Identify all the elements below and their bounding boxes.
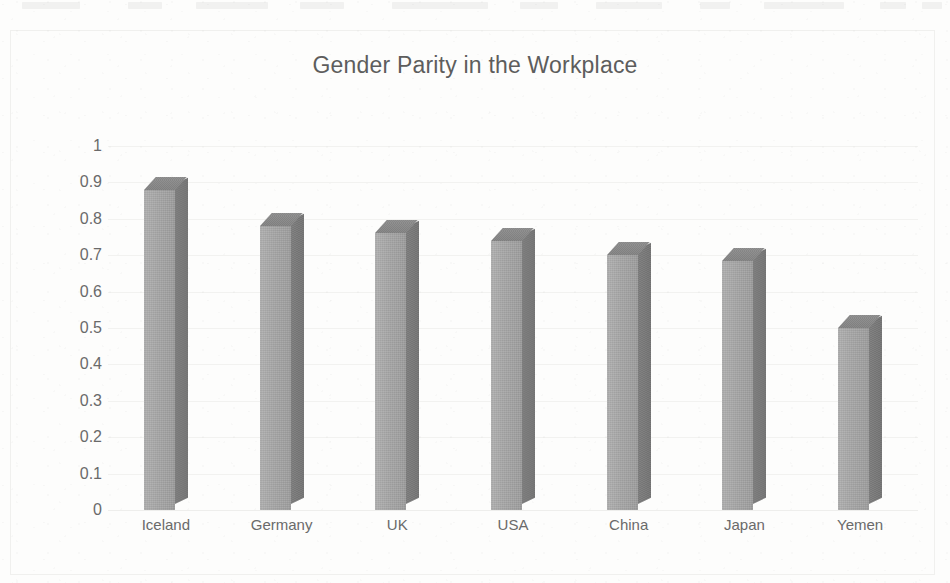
gridline bbox=[108, 219, 918, 220]
chart-title: Gender Parity in the Workplace bbox=[0, 52, 950, 79]
bar-side-face bbox=[753, 248, 766, 504]
chart-page: Gender Parity in the Workplace 10.90.80.… bbox=[0, 0, 950, 583]
x-axis-tick-label: USA bbox=[498, 516, 529, 533]
scan-artifact-fragment bbox=[700, 2, 730, 9]
bar-front-face bbox=[375, 233, 406, 510]
bar-column[interactable] bbox=[375, 233, 406, 510]
y-axis-tick-label: 0 bbox=[28, 501, 102, 519]
x-axis-tick-label: Germany bbox=[251, 516, 313, 533]
y-axis-tick-label: 0.3 bbox=[28, 392, 102, 410]
x-axis-tick-label: Iceland bbox=[142, 516, 190, 533]
bar-side-face bbox=[638, 243, 651, 504]
scan-artifact-fragment bbox=[520, 2, 558, 9]
bar-side-face bbox=[406, 221, 419, 504]
y-axis-tick-label: 0.7 bbox=[28, 246, 102, 264]
scan-artifact-fragment bbox=[596, 2, 662, 9]
gridline bbox=[108, 146, 918, 147]
y-axis-tick-label: 0.6 bbox=[28, 283, 102, 301]
bar-front-face bbox=[260, 226, 291, 510]
bar-side-face bbox=[522, 228, 535, 504]
bar-front-face bbox=[722, 261, 753, 510]
x-axis: IcelandGermanyUKUSAChinaJapanYemen bbox=[108, 516, 918, 546]
y-axis-tick-label: 0.9 bbox=[28, 173, 102, 191]
scan-artifact-fragment bbox=[300, 2, 344, 9]
x-axis-tick-label: China bbox=[609, 516, 648, 533]
bar-column[interactable] bbox=[260, 226, 291, 510]
y-axis-tick-label: 0.8 bbox=[28, 210, 102, 228]
scan-artifact-fragment bbox=[922, 2, 942, 9]
y-axis-tick-label: 0.2 bbox=[28, 428, 102, 446]
scan-artifact-fragment bbox=[764, 2, 844, 9]
scan-artifact-fragment bbox=[128, 2, 162, 9]
bar-column[interactable] bbox=[722, 261, 753, 510]
bar-column[interactable] bbox=[838, 328, 869, 510]
y-axis-tick-label: 1 bbox=[28, 137, 102, 155]
bar-front-face bbox=[491, 241, 522, 510]
plot-area bbox=[108, 146, 918, 510]
bar-column[interactable] bbox=[144, 190, 175, 510]
bar-front-face bbox=[838, 328, 869, 510]
x-axis-tick-label: Yemen bbox=[837, 516, 883, 533]
scan-artifact-fragment bbox=[392, 2, 488, 9]
x-axis-tick-label: UK bbox=[387, 516, 408, 533]
x-axis-tick-label: Japan bbox=[724, 516, 765, 533]
y-axis: 10.90.80.70.60.50.40.30.20.10 bbox=[28, 146, 102, 510]
bar-front-face bbox=[144, 190, 175, 510]
bar-side-face bbox=[175, 177, 188, 504]
scan-artifact-fragment bbox=[880, 2, 906, 9]
y-axis-tick-label: 0.4 bbox=[28, 355, 102, 373]
bar-front-face bbox=[607, 255, 638, 510]
y-axis-tick-label: 0.1 bbox=[28, 465, 102, 483]
bar-column[interactable] bbox=[491, 241, 522, 510]
gridline bbox=[108, 510, 918, 511]
scan-artifact-fragment bbox=[22, 2, 80, 9]
scan-artifact-strip bbox=[0, 0, 950, 14]
gridline bbox=[108, 182, 918, 183]
bar-side-face bbox=[291, 214, 304, 504]
scan-artifact-fragment bbox=[196, 2, 268, 9]
bar-column[interactable] bbox=[607, 255, 638, 510]
y-axis-tick-label: 0.5 bbox=[28, 319, 102, 337]
bar-side-face bbox=[869, 316, 882, 504]
